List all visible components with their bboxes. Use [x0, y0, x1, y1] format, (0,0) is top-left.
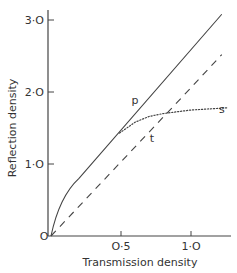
y-ticks: 1·O2·O3·O [25, 14, 54, 171]
curve-label-p: p [132, 94, 139, 107]
x-tick-label: O·5 [111, 240, 130, 253]
x-tick-label: O [40, 230, 49, 243]
curve-label-t: t [150, 132, 155, 145]
y-axis-label: Reflection density [6, 78, 19, 177]
x-tick-label: 1·O [181, 240, 200, 253]
y-tick-label: 2·O [25, 86, 44, 99]
x-ticks: OO·51·O [40, 230, 201, 253]
curve-label-s: s [219, 103, 225, 116]
series-s [120, 108, 228, 133]
series-t [51, 55, 222, 236]
x-axis-label: Transmission density [82, 256, 198, 269]
y-tick-label: 1·O [25, 158, 44, 171]
chart: 1·O2·O3·O OO·51·O pts Transmission densi… [0, 0, 237, 273]
series-p [51, 14, 222, 236]
series-group [51, 14, 227, 236]
y-tick-label: 3·O [25, 14, 44, 27]
